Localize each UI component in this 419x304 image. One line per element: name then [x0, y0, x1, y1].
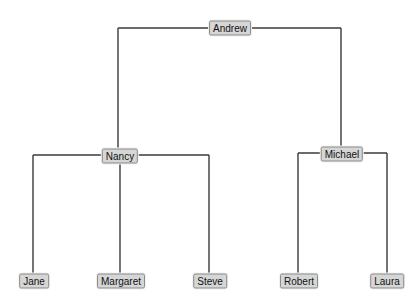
node-jane[interactable]: Jane [19, 274, 49, 289]
node-robert[interactable]: Robert [280, 274, 318, 289]
node-michael[interactable]: Michael [321, 147, 363, 162]
node-nancy[interactable]: Nancy [102, 149, 138, 164]
node-margaret[interactable]: Margaret [97, 274, 145, 289]
node-laura[interactable]: Laura [370, 274, 404, 289]
node-andrew[interactable]: Andrew [209, 21, 251, 36]
node-steve[interactable]: Steve [193, 274, 227, 289]
